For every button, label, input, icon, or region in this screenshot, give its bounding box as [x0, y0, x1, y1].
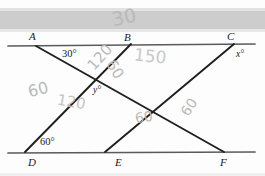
pencil-note-top-30: 30: [110, 6, 138, 30]
point-label-B: B: [124, 32, 131, 43]
angle-label-30-at-A: 30°: [62, 49, 77, 60]
pencil-note-60-left: 60: [26, 80, 50, 100]
pencil-note-150: 150: [133, 46, 167, 66]
bottom-parallel-line: [8, 152, 255, 153]
angle-label-60-at-D: 60°: [40, 137, 55, 148]
point-label-F: F: [220, 157, 227, 168]
scan-bottom-edge-shade: [0, 173, 265, 176]
transversal-C-to-E: [105, 44, 234, 152]
angle-label-y-at-center: y°: [93, 86, 101, 96]
point-label-A: A: [29, 31, 36, 42]
pencil-note-60-lower-left: 60: [134, 109, 154, 125]
point-label-D: D: [28, 157, 36, 168]
point-label-E: E: [115, 157, 122, 168]
scan-top-gray-band-soft-lower: [0, 29, 265, 32]
angle-label-x-at-C: x°: [236, 50, 244, 60]
point-label-C: C: [227, 31, 234, 42]
scanned-figure-page: A B C D E F 30° 60° x° y° 30 120 150 60 …: [0, 0, 265, 176]
